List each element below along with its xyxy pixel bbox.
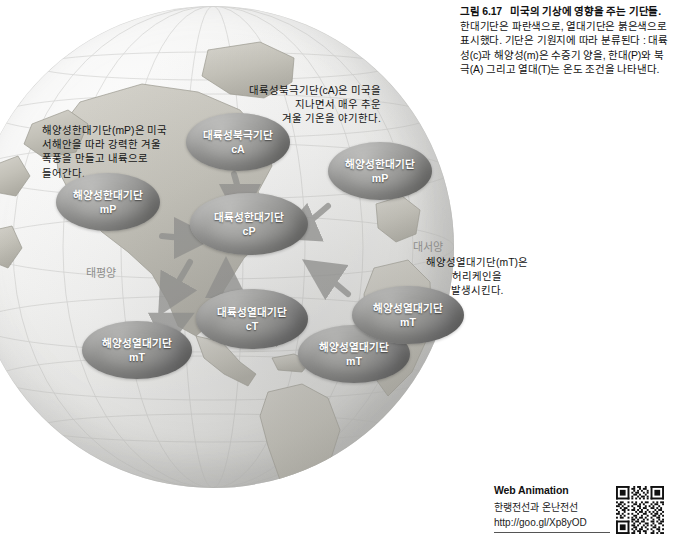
figure-body: 한대기단은 파란색으로, 열대기단은 붉은색으로 표시했다. 기단은 기원지에 … <box>460 20 668 76</box>
air-mass-name: 해양성열대기단 <box>102 336 172 350</box>
globe-map: 태평양 대서양 대륙성북극기단(cA)은 미국을 지나면서 매우 추운 겨울 기… <box>0 0 470 505</box>
air-mass-name: 대륙성북극기단 <box>203 128 273 142</box>
air-mass-bubble-mT-pacific: 해양성열대기단 mT <box>82 321 192 379</box>
air-mass-code: mT <box>400 315 416 329</box>
air-mass-bubble-cT: 대륙성열대기단 cT <box>196 289 308 349</box>
air-mass-name: 대륙성한대기단 <box>214 210 284 224</box>
web-animation-url[interactable]: http://goo.gl/Xp8yOD <box>494 517 610 533</box>
air-mass-code: mT <box>346 354 362 368</box>
air-mass-code: cP <box>243 224 256 238</box>
figure-title: 미국의 기상에 영향을 주는 기단들. <box>510 5 661 17</box>
air-mass-bubble-mP-west: 해양성한대기단 mP <box>56 173 160 231</box>
air-mass-bubble-cA: 대륙성북극기단 cA <box>186 113 290 171</box>
ocean-label-pacific: 태평양 <box>86 264 116 280</box>
air-mass-code: cA <box>231 142 245 156</box>
air-mass-bubble-cP: 대륙성한대기단 cP <box>190 193 308 255</box>
air-mass-name: 해양성한대기단 <box>345 157 415 171</box>
qr-code-icon[interactable] <box>616 486 664 534</box>
air-mass-bubble-mP-east: 해양성한대기단 mP <box>328 142 432 200</box>
annotation-maritime-polar: 해양성한대기단(mP)은 미국 서해안을 따라 강력한 겨울 폭풍을 만들고 내… <box>42 124 200 181</box>
air-mass-code: mT <box>129 350 145 364</box>
air-mass-code: mP <box>100 202 117 216</box>
air-mass-code: mP <box>372 171 389 185</box>
figure-number: 그림 6.17 <box>460 5 502 17</box>
air-mass-code: cT <box>246 319 258 333</box>
air-mass-bubble-mT-atlantic: 해양성열대기단 mT <box>352 286 464 344</box>
air-mass-name: 해양성한대기단 <box>73 188 143 202</box>
air-mass-name: 해양성열대기단 <box>373 301 443 315</box>
ocean-label-atlantic: 대서양 <box>413 238 443 254</box>
air-mass-name: 해양성열대기단 <box>319 340 389 354</box>
figure-caption: 그림 6.17 미국의 기상에 영향을 주는 기단들. 한대기단은 파란색으로,… <box>460 4 672 77</box>
air-mass-name: 대륙성열대기단 <box>217 305 287 319</box>
